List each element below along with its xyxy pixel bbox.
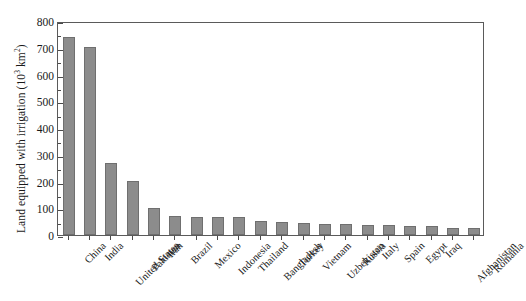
bar: [426, 226, 438, 235]
y-axis-tick-labels: 0100200300400500600700800: [18, 0, 54, 301]
y-axis-tick-label: 600: [18, 70, 54, 82]
x-axis-category-label: India: [102, 240, 125, 263]
bar: [127, 181, 139, 235]
bar: [276, 222, 288, 235]
y-axis-tick-label: 200: [18, 177, 54, 189]
bar: [340, 224, 352, 235]
y-axis-tick-label: 100: [18, 203, 54, 215]
x-axis-category-label: Brazil: [189, 240, 215, 266]
bar-series: [58, 23, 483, 235]
bar: [212, 217, 224, 235]
x-axis-category-label: Spain: [402, 240, 427, 265]
bar: [191, 217, 203, 235]
bar: [319, 224, 331, 235]
bar: [84, 47, 96, 235]
bar: [404, 226, 416, 235]
y-axis-label-container: Land equipped with irrigation (103 km2): [0, 0, 20, 245]
x-axis-category-label: Vietnam: [320, 240, 353, 273]
bar: [298, 223, 310, 235]
y-axis-tick-label: 800: [18, 16, 54, 28]
bar: [63, 37, 75, 235]
bar: [148, 208, 160, 235]
y-axis-tick-label: 700: [18, 43, 54, 55]
x-axis-category-label: Iraq: [443, 240, 463, 260]
y-axis-tick-label: 400: [18, 123, 54, 135]
bar: [105, 163, 117, 235]
bar: [468, 228, 480, 235]
plot-area: [57, 22, 484, 236]
y-axis-tick-label: 500: [18, 96, 54, 108]
bar: [362, 225, 374, 235]
bar: [383, 225, 395, 235]
bar: [447, 228, 459, 235]
y-axis-tick-label: 0: [18, 230, 54, 242]
bar: [233, 217, 245, 235]
bar: [169, 216, 181, 235]
bar: [255, 221, 267, 235]
x-axis-tick-labels: ChinaIndiaUnited StatesPakistanIranBrazi…: [57, 240, 499, 301]
y-axis-tick-label: 300: [18, 150, 54, 162]
